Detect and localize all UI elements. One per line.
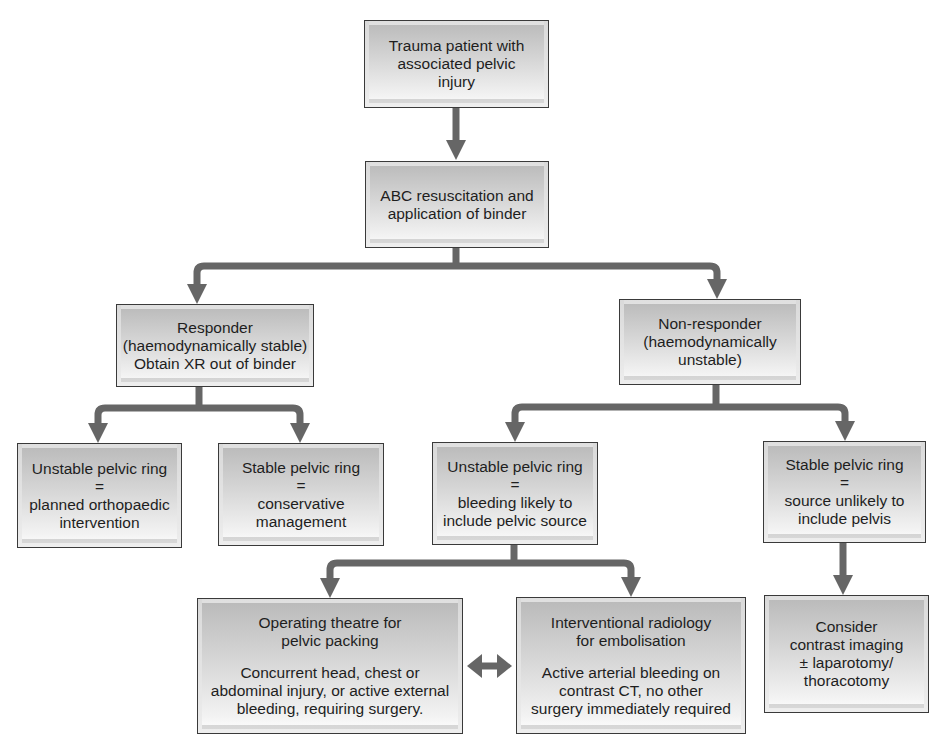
- node-heading: for embolisation: [576, 632, 685, 650]
- node-text: injury: [438, 73, 475, 91]
- edge-responder-unstable: [98, 408, 199, 425]
- node-text: unstable): [678, 351, 742, 369]
- node-detail: contrast CT, no other: [559, 682, 703, 700]
- node-text: Responder: [177, 319, 253, 337]
- node-unstable-ring-bleeding: Unstable pelvic ring = bleeding likely t…: [432, 442, 598, 545]
- node-heading: Operating theatre for: [258, 614, 401, 632]
- node-text: planned orthopaedic: [29, 496, 169, 514]
- node-text: =: [296, 477, 305, 495]
- node-text: source unlikely to: [785, 492, 905, 510]
- node-operating-theatre: Operating theatre for pelvic packing Con…: [197, 598, 463, 734]
- node-stable-ring-conservative: Stable pelvic ring = conservative manage…: [218, 443, 384, 546]
- node-text: =: [840, 474, 849, 492]
- node-detail: bleeding, requiring surgery.: [237, 700, 424, 718]
- node-text: (haemodynamically stable): [123, 337, 307, 355]
- node-abc-resuscitation: ABC resuscitation and application of bin…: [365, 161, 549, 248]
- node-text: Stable pelvic ring: [785, 456, 903, 474]
- edge-bleeding-ot: [330, 563, 514, 580]
- node-text: =: [95, 478, 104, 496]
- edge-abc-responder: [197, 266, 456, 286]
- node-text: Consider: [815, 618, 877, 636]
- node-text: Trauma patient with: [389, 37, 525, 55]
- node-text: include pelvic source: [443, 512, 587, 530]
- node-detail: surgery immediately required: [531, 700, 731, 718]
- node-text: Obtain XR out of binder: [134, 355, 296, 373]
- node-text: =: [510, 476, 519, 494]
- node-text: thoracotomy: [804, 672, 889, 690]
- edge-nonresponder-unstable: [515, 407, 716, 424]
- node-heading: Interventional radiology: [551, 614, 711, 632]
- node-text: Stable pelvic ring: [242, 459, 360, 477]
- edge-responder-stable: [199, 408, 300, 425]
- node-detail: abdominal injury, or active external: [211, 682, 449, 700]
- node-non-responder: Non-responder (haemodynamically unstable…: [619, 299, 801, 385]
- edge-abc-nonresponder: [456, 266, 717, 281]
- node-text: (haemodynamically: [643, 333, 777, 351]
- node-detail: Concurrent head, chest or: [240, 664, 419, 682]
- node-consider-imaging: Consider contrast imaging ± laparotomy/ …: [764, 595, 929, 713]
- edge-bleeding-ir: [514, 563, 631, 579]
- node-text: ± laparotomy/: [800, 654, 894, 672]
- node-text: Non-responder: [658, 315, 761, 333]
- node-text: conservative: [257, 495, 344, 513]
- node-text: Unstable pelvic ring: [32, 460, 167, 478]
- node-unstable-ring-orthopaedic: Unstable pelvic ring = planned orthopaed…: [17, 443, 182, 548]
- flowchart: Trauma patient with associated pelvic in…: [0, 0, 950, 752]
- node-text: ABC resuscitation and: [380, 187, 533, 205]
- node-interventional-radiology: Interventional radiology for embolisatio…: [516, 597, 746, 734]
- node-stable-ring-source: Stable pelvic ring = source unlikely to …: [763, 441, 926, 543]
- node-trauma-patient: Trauma patient with associated pelvic in…: [364, 20, 549, 108]
- node-text: bleeding likely to: [458, 494, 573, 512]
- node-text: associated pelvic: [397, 55, 515, 73]
- node-text: application of binder: [388, 205, 527, 223]
- node-heading: pelvic packing: [281, 632, 378, 650]
- node-text: management: [256, 513, 346, 531]
- edge-nonresponder-stable: [716, 407, 845, 423]
- node-text: Unstable pelvic ring: [447, 458, 582, 476]
- node-responder: Responder (haemodynamically stable) Obta…: [116, 304, 314, 387]
- node-text: contrast imaging: [790, 636, 904, 654]
- node-text: include pelvis: [798, 510, 891, 528]
- node-detail: Active arterial bleeding on: [542, 664, 720, 682]
- node-text: intervention: [59, 514, 139, 532]
